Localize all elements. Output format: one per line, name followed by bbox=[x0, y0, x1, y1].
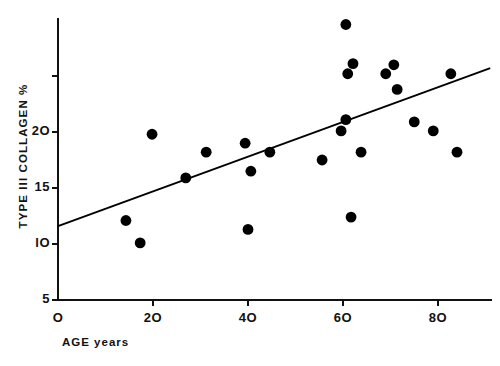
data-point bbox=[264, 147, 275, 158]
data-point bbox=[245, 166, 256, 177]
data-point bbox=[121, 215, 132, 226]
data-point bbox=[380, 68, 391, 79]
data-point bbox=[180, 173, 191, 184]
data-point bbox=[445, 68, 456, 79]
data-point bbox=[346, 212, 357, 223]
data-point bbox=[336, 125, 347, 136]
x-tick-label: 8O bbox=[426, 310, 450, 325]
y-tick-label: lO bbox=[20, 235, 50, 250]
data-point bbox=[340, 114, 351, 125]
y-tick-label: 5 bbox=[20, 291, 50, 306]
x-tick-label: O bbox=[46, 310, 70, 325]
data-point bbox=[317, 155, 328, 166]
data-point bbox=[392, 84, 403, 95]
y-axis-title: TYPE III COLLAGEN % bbox=[17, 81, 29, 231]
data-point bbox=[356, 147, 367, 158]
data-point bbox=[135, 237, 146, 248]
data-point bbox=[147, 129, 158, 140]
data-point bbox=[409, 117, 420, 128]
data-point bbox=[428, 125, 439, 136]
data-point bbox=[243, 224, 254, 235]
regression-line bbox=[58, 68, 490, 226]
x-tick-label: 6O bbox=[331, 310, 355, 325]
data-point bbox=[388, 59, 399, 70]
axes bbox=[58, 18, 492, 300]
data-points bbox=[121, 19, 463, 248]
x-axis-title: AGE years bbox=[62, 336, 129, 348]
data-point bbox=[348, 58, 359, 69]
x-tick-label: 4O bbox=[236, 310, 260, 325]
data-point bbox=[452, 147, 463, 158]
x-tick-label: 2O bbox=[141, 310, 165, 325]
data-point bbox=[342, 68, 353, 79]
data-point bbox=[201, 147, 212, 158]
trend-line bbox=[58, 68, 490, 226]
chart-figure: 5lO152O O2O4O6O8O TYPE III COLLAGEN % AG… bbox=[0, 0, 500, 366]
data-point bbox=[240, 138, 251, 149]
data-point bbox=[340, 19, 351, 30]
